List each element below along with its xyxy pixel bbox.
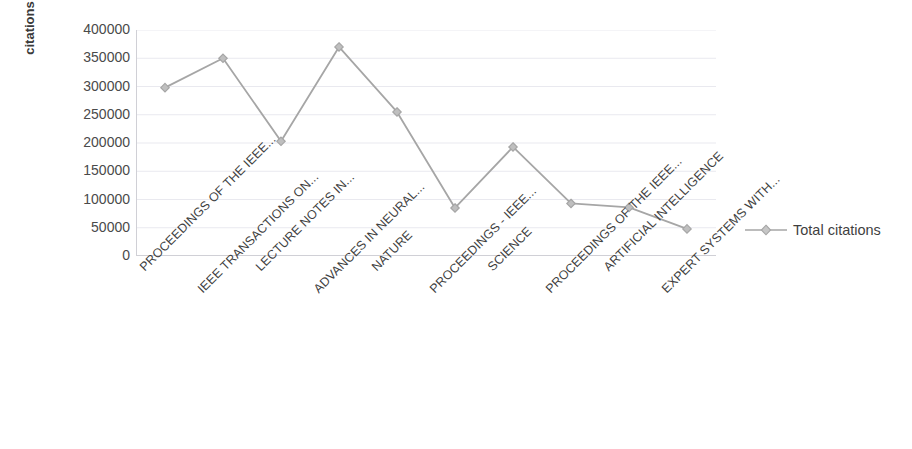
gridlines bbox=[136, 30, 716, 256]
y-axis-tick-label: 250000 bbox=[58, 107, 130, 121]
plot-svg bbox=[136, 30, 716, 256]
y-axis-tick-label: 400000 bbox=[58, 22, 130, 36]
data-point-marker bbox=[683, 225, 691, 233]
y-axis-tick-label: 300000 bbox=[58, 79, 130, 93]
data-point-marker bbox=[625, 203, 633, 211]
line-chart: citations 400000350000300000250000200000… bbox=[0, 0, 912, 449]
diamond-marker-icon bbox=[745, 224, 787, 236]
y-axis-tick-label: 50000 bbox=[58, 220, 130, 234]
y-axis-tick-label: 0 bbox=[58, 248, 130, 262]
chart-legend: Total citations bbox=[745, 222, 881, 238]
y-axis-tick-label: 350000 bbox=[58, 50, 130, 64]
plot-area bbox=[136, 30, 716, 256]
y-axis-tick-label: 100000 bbox=[58, 192, 130, 206]
y-axis-title: citations bbox=[22, 0, 37, 88]
y-axis-tick-label: 150000 bbox=[58, 163, 130, 177]
y-axis-tick-labels: 4000003500003000002500002000001500001000… bbox=[58, 0, 130, 449]
y-axis-tick-label: 200000 bbox=[58, 135, 130, 149]
series-markers-total-citations bbox=[161, 43, 691, 233]
series-polyline bbox=[165, 47, 687, 229]
series-line-total-citations bbox=[165, 47, 687, 229]
legend-label-total-citations: Total citations bbox=[793, 222, 881, 238]
data-point-marker bbox=[161, 83, 169, 91]
